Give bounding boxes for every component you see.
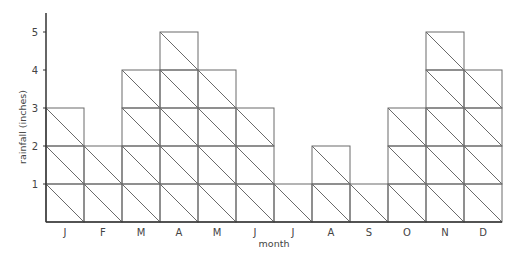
x-axis-labels: JFMAMJJASOND — [63, 227, 488, 238]
unit-diagonal — [426, 146, 464, 184]
bar-D — [464, 70, 502, 222]
unit-diagonal — [426, 32, 464, 70]
bar-J — [46, 108, 84, 222]
month-label: A — [176, 227, 183, 238]
unit-diagonal — [46, 108, 84, 146]
unit-diagonal — [350, 184, 388, 222]
x-axis-title: month — [259, 238, 290, 249]
bar-J — [236, 108, 274, 222]
month-label: M — [213, 227, 222, 238]
unit-diagonal — [426, 108, 464, 146]
unit-diagonal — [46, 146, 84, 184]
rainfall-chart: 12345 JFMAMJJASOND rainfall (inches) mon… — [0, 0, 522, 266]
unit-diagonal — [198, 70, 236, 108]
bar-J — [274, 184, 312, 222]
month-label: S — [366, 227, 372, 238]
unit-diagonal — [46, 184, 84, 222]
unit-diagonal — [160, 184, 198, 222]
y-axis-ticks: 12345 — [32, 27, 46, 190]
y-tick-label: 1 — [32, 179, 38, 190]
bar-A — [160, 32, 198, 222]
month-label: F — [100, 227, 106, 238]
unit-diagonal — [160, 70, 198, 108]
unit-diagonal — [122, 146, 160, 184]
unit-diagonal — [388, 184, 426, 222]
unit-diagonal — [464, 70, 502, 108]
unit-diagonal — [426, 70, 464, 108]
bar-cells — [46, 32, 502, 222]
month-label: O — [403, 227, 411, 238]
unit-diagonal — [198, 108, 236, 146]
unit-diagonal — [464, 146, 502, 184]
month-label: M — [137, 227, 146, 238]
bar-M — [198, 70, 236, 222]
month-label: J — [253, 227, 257, 238]
unit-diagonal — [312, 146, 350, 184]
month-label: N — [441, 227, 448, 238]
unit-diagonal — [160, 32, 198, 70]
bar-A — [312, 146, 350, 222]
bar-F — [84, 146, 122, 222]
unit-diagonal — [464, 108, 502, 146]
unit-diagonal — [122, 70, 160, 108]
y-axis-title: rainfall (inches) — [17, 90, 28, 164]
unit-diagonal — [198, 184, 236, 222]
unit-diagonal — [426, 184, 464, 222]
unit-diagonal — [160, 146, 198, 184]
unit-diagonal — [236, 108, 274, 146]
unit-diagonal — [236, 146, 274, 184]
month-label: D — [479, 227, 487, 238]
unit-diagonal — [84, 184, 122, 222]
unit-diagonal — [122, 108, 160, 146]
month-label: A — [328, 227, 335, 238]
y-tick-label: 3 — [32, 103, 38, 114]
unit-diagonal — [160, 108, 198, 146]
unit-diagonal — [312, 184, 350, 222]
bar-O — [388, 108, 426, 222]
unit-diagonal — [388, 146, 426, 184]
y-tick-label: 2 — [32, 141, 38, 152]
bar-N — [426, 32, 464, 222]
unit-diagonal — [236, 184, 274, 222]
unit-diagonal — [84, 146, 122, 184]
y-tick-label: 4 — [32, 65, 38, 76]
unit-diagonal — [464, 184, 502, 222]
bar-S — [350, 184, 388, 222]
month-label: J — [291, 227, 295, 238]
unit-diagonal — [388, 108, 426, 146]
unit-diagonal — [122, 184, 160, 222]
unit-diagonal — [198, 146, 236, 184]
y-tick-label: 5 — [32, 27, 38, 38]
bar-M — [122, 70, 160, 222]
unit-diagonal — [274, 184, 312, 222]
month-label: J — [63, 227, 67, 238]
